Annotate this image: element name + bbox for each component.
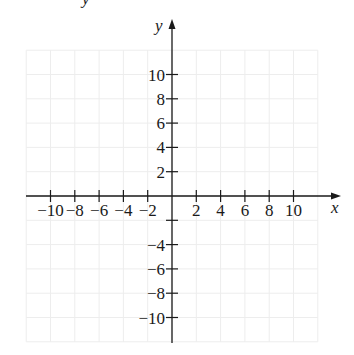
x-tick-label: 10 bbox=[285, 201, 302, 220]
coordinate-plane: y −10−8−6−4−2246810 108642−4−6−8−10 x y bbox=[0, 0, 354, 355]
x-ticks: −10−8−6−4−2246810 bbox=[37, 190, 302, 220]
y-tick-label: 4 bbox=[157, 138, 166, 157]
x-tick-label: 6 bbox=[241, 201, 250, 220]
y-tick-label: 8 bbox=[157, 90, 166, 109]
y-tick-label: 6 bbox=[157, 114, 166, 133]
x-tick-label: −10 bbox=[37, 201, 64, 220]
y-tick-label: 10 bbox=[148, 66, 165, 85]
y-tick-label: −8 bbox=[147, 284, 165, 303]
cropped-caption-fragment: y bbox=[80, 0, 90, 8]
y-axis-label: y bbox=[153, 16, 163, 35]
y-tick-label: 2 bbox=[157, 163, 166, 182]
y-tick-label: −6 bbox=[147, 260, 165, 279]
x-tick-label: 4 bbox=[216, 201, 225, 220]
x-tick-label: −2 bbox=[139, 201, 157, 220]
x-tick-label: −8 bbox=[66, 201, 84, 220]
y-tick-label: −4 bbox=[147, 236, 166, 255]
x-tick-label: 2 bbox=[192, 201, 201, 220]
x-tick-label: −6 bbox=[90, 201, 108, 220]
x-axis-label: x bbox=[330, 198, 339, 217]
y-axis-arrow-icon bbox=[169, 19, 176, 29]
y-tick-label: −10 bbox=[138, 309, 165, 328]
x-tick-label: 8 bbox=[265, 201, 274, 220]
x-tick-label: −4 bbox=[114, 201, 133, 220]
